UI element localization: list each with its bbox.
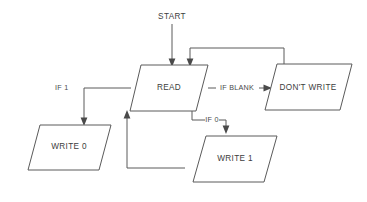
edge-start-to-read (169, 24, 176, 67)
edge-read-to-write-0: IF 1 (55, 83, 131, 126)
edge-label-if-blank: IF BLANK (220, 83, 254, 92)
edge-dont-write-to-read-line (190, 48, 284, 64)
edge-label-if-1: IF 1 (55, 83, 68, 92)
start-label: START (158, 12, 186, 21)
node-write-0-label: WRITE 0 (51, 142, 87, 151)
node-write-0[interactable]: WRITE 0 (28, 125, 111, 170)
edge-write-1-to-read-line (127, 116, 185, 168)
edge-read-to-write-1: IF 0 (192, 104, 229, 134)
arrowhead-read-to-write-1 (223, 126, 230, 135)
flowchart-canvas: IF 1 IF BLANK IF 0 START READ (0, 0, 367, 202)
edge-read-to-dont-write: IF BLANK (208, 83, 272, 92)
node-write-1[interactable]: WRITE 1 (193, 136, 277, 182)
edge-read-to-write-0-line (84, 88, 131, 120)
node-read[interactable]: READ (130, 65, 208, 111)
node-dont-write-label: DON'T WRITE (279, 83, 336, 92)
flowchart-svg: IF 1 IF BLANK IF 0 START READ (0, 0, 367, 202)
edge-write-1-to-read (124, 110, 185, 168)
arrowhead-write-1-to-read (124, 110, 131, 119)
edge-dont-write-to-read (187, 48, 284, 67)
node-dont-write[interactable]: DON'T WRITE (265, 64, 352, 110)
node-write-1-label: WRITE 1 (217, 154, 253, 163)
edge-label-if-0: IF 0 (205, 115, 218, 124)
node-read-label: READ (157, 83, 181, 92)
